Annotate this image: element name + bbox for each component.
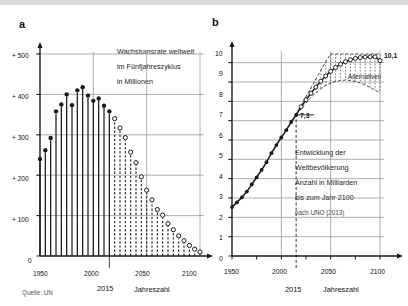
panel-b-point-observed <box>245 190 249 194</box>
panel-a-marker-solid <box>80 85 84 89</box>
panel-b-upper-alternative <box>296 54 380 115</box>
panel-b-point-observed <box>294 113 298 117</box>
panel-b-point-observed <box>284 128 288 132</box>
panel-b-point-projected <box>339 62 343 66</box>
panel-b-point-projected <box>353 56 357 60</box>
panel-a-marker-solid <box>48 136 52 140</box>
panel-a-marker-solid <box>96 96 100 100</box>
panel-a-yaxis-arrow-icon <box>37 42 42 48</box>
panel-b-xaxis-arrow-icon <box>397 253 403 258</box>
panel-a-marker-open <box>139 175 143 179</box>
panel-a-marker-solid <box>54 109 58 113</box>
panel-b-point-projected <box>319 79 323 83</box>
panel-a-marker-open <box>129 150 133 154</box>
panel-a-xaxis-arrow-icon <box>207 253 213 258</box>
panel-a-marker-open <box>118 126 122 130</box>
panel-a-marker-solid <box>70 103 74 107</box>
panel-b-point-projected <box>329 69 333 73</box>
panel-a-marker-solid <box>102 104 106 108</box>
panel-b-point-observed <box>255 175 259 179</box>
panel-a-marker-open <box>123 136 127 140</box>
panel-a-marker-solid <box>64 92 68 96</box>
panel-a-marker-solid <box>59 102 63 106</box>
panel-b-point-projected <box>324 74 328 78</box>
panel-a-marker-open <box>187 243 191 247</box>
panel-b-point-observed <box>240 196 244 200</box>
panel-b-point-projected <box>314 85 318 89</box>
panel-b-point-observed <box>275 143 279 147</box>
panel-a-marker-solid <box>91 99 95 103</box>
panel-b-main-line <box>232 57 380 207</box>
panel-b-lower-alternative <box>296 80 380 115</box>
panel-a-marker-open <box>161 213 165 217</box>
panel-b-point-observed <box>235 201 239 205</box>
panel-a-marker-solid <box>43 148 47 152</box>
panel-b-point-projected <box>304 98 308 102</box>
panel-a-marker-open <box>166 222 170 226</box>
figure-container: a b Wachstumsrate weltweit im Fünfjahres… <box>0 0 408 306</box>
panel-b-point-observed <box>260 168 264 172</box>
panel-a-marker-open <box>198 250 202 254</box>
panel-b-point-projected <box>299 105 303 109</box>
panel-a-marker-open <box>171 228 175 232</box>
panel-a-marker-open <box>182 239 186 243</box>
panel-b-point-observed <box>250 183 254 187</box>
panel-a-marker-open <box>113 117 117 121</box>
panel-b-point-projected <box>334 66 338 70</box>
panel-a-marker-open <box>155 207 159 211</box>
panel-b-point-projected <box>358 56 362 60</box>
panel-a-marker-open <box>177 234 181 238</box>
panel-b-point-projected <box>309 91 313 95</box>
panel-a-marker-solid <box>86 93 90 97</box>
panel-a-marker-solid <box>38 157 42 161</box>
panel-b-point-projected <box>348 58 352 62</box>
panel-b-point-observed <box>279 136 283 140</box>
panel-b-point-projected <box>378 59 382 63</box>
plot-canvas <box>0 0 408 306</box>
panel-b-point-projected <box>363 55 367 59</box>
panel-a-marker-open <box>193 247 197 251</box>
panel-b-point-projected <box>373 55 377 59</box>
panel-b-point-projected <box>368 55 372 59</box>
panel-a-marker-open <box>145 188 149 192</box>
panel-b-point-observed <box>289 120 293 124</box>
panel-b-point-observed <box>270 151 274 155</box>
panel-a-marker-open <box>150 198 154 202</box>
panel-b-yaxis-arrow-icon <box>229 41 234 47</box>
panel-a-marker-solid <box>107 109 111 113</box>
panel-a-marker-open <box>134 161 138 165</box>
panel-b-point-observed <box>265 160 269 164</box>
panel-b-point-projected <box>343 60 347 64</box>
panel-b-point-observed <box>230 205 234 209</box>
panel-a-marker-solid <box>75 88 79 92</box>
